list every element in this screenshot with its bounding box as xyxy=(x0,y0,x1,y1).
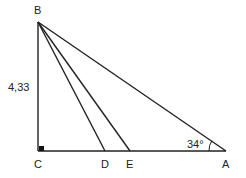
point-label-e: E xyxy=(126,158,133,170)
point-label-b: B xyxy=(34,4,41,16)
angle-arc-a xyxy=(209,141,212,152)
point-label-d: D xyxy=(101,158,109,170)
side-length-label: 4,33 xyxy=(8,81,29,93)
segment-be xyxy=(38,22,130,151)
point-label-a: A xyxy=(222,158,230,170)
right-angle-marker xyxy=(39,146,44,151)
point-label-c: C xyxy=(34,158,42,170)
triangle-diagram: B C D E A 4,33 34° xyxy=(0,0,246,178)
angle-label: 34° xyxy=(187,138,204,150)
segment-bd xyxy=(38,22,105,151)
segment-ba xyxy=(38,22,226,151)
